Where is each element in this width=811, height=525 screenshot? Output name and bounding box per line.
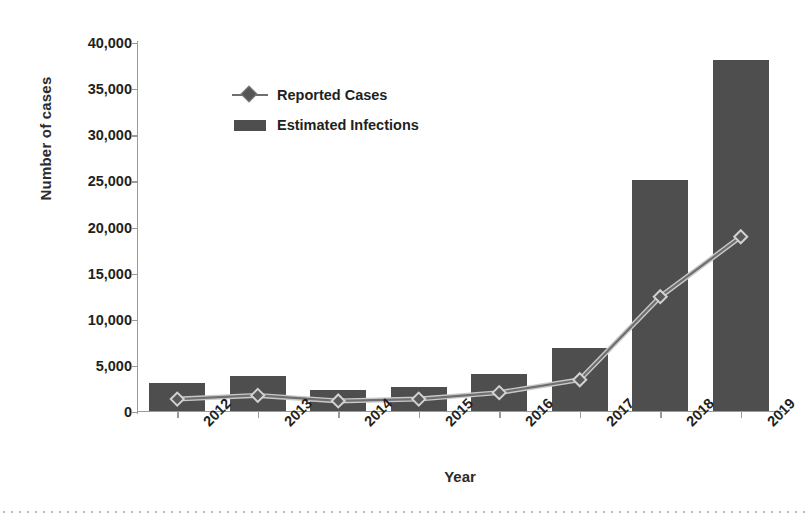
y-axis-tick-label: 0: [48, 404, 132, 420]
x-axis-tick-label: 2015: [442, 418, 453, 429]
y-axis-tick-mark: [131, 366, 137, 367]
x-axis-tick-labels: 20122013201420152016201720182019: [137, 418, 783, 474]
y-axis-tick-labels: 05,00010,00015,00020,00025,00030,00035,0…: [48, 0, 132, 525]
diamond-marker: [412, 393, 425, 406]
diamond-marker: [493, 386, 506, 399]
y-axis-tick-mark: [131, 228, 137, 229]
y-axis-tick-label: 40,000: [48, 35, 132, 51]
legend-item-reported-cases: Reported Cases: [232, 82, 462, 107]
y-axis-tick-mark: [131, 274, 137, 275]
y-axis-tick-label: 30,000: [48, 127, 132, 143]
diamond-marker: [171, 393, 184, 406]
y-axis-tick-label: 20,000: [48, 220, 132, 236]
x-axis-tick-label: 2019: [764, 418, 775, 429]
y-axis-tick-label: 25,000: [48, 173, 132, 189]
line-diamond-marker-icon: [232, 87, 268, 103]
line-path: [177, 237, 741, 401]
y-axis-tick-label: 5,000: [48, 358, 132, 374]
x-axis-tick-label: 2016: [522, 418, 533, 429]
legend-label-reported-cases: Reported Cases: [277, 87, 387, 103]
y-axis-tick-mark: [131, 43, 137, 44]
chart-legend: Reported Cases Estimated Infections: [232, 82, 462, 142]
bar-swatch-icon: [232, 117, 268, 133]
y-axis-tick-mark: [131, 181, 137, 182]
y-axis-tick-mark: [131, 89, 137, 90]
x-axis-tick-label: 2018: [683, 418, 694, 429]
y-axis-tick-label: 10,000: [48, 312, 132, 328]
line-halo: [177, 237, 741, 401]
x-axis-tick-label: 2012: [200, 418, 211, 429]
x-axis-tick-label: 2014: [361, 418, 372, 429]
diamond-marker: [251, 389, 264, 402]
y-axis-tick-label: 15,000: [48, 266, 132, 282]
chart-canvas: Number of cases 05,00010,00015,00020,000…: [0, 0, 811, 525]
x-axis-title: Year: [137, 468, 783, 485]
diamond-marker: [332, 394, 345, 407]
page-bottom-dotted-rule: [0, 511, 811, 513]
y-axis-tick-mark: [131, 412, 137, 413]
y-axis-tick-label: 35,000: [48, 81, 132, 97]
legend-item-estimated-infections: Estimated Infections: [232, 112, 462, 137]
x-axis-tick-label: 2017: [603, 418, 614, 429]
y-axis-tick-mark: [131, 320, 137, 321]
x-axis-tick-label: 2013: [281, 418, 292, 429]
legend-label-estimated-infections: Estimated Infections: [277, 117, 419, 133]
y-axis-tick-mark: [131, 135, 137, 136]
